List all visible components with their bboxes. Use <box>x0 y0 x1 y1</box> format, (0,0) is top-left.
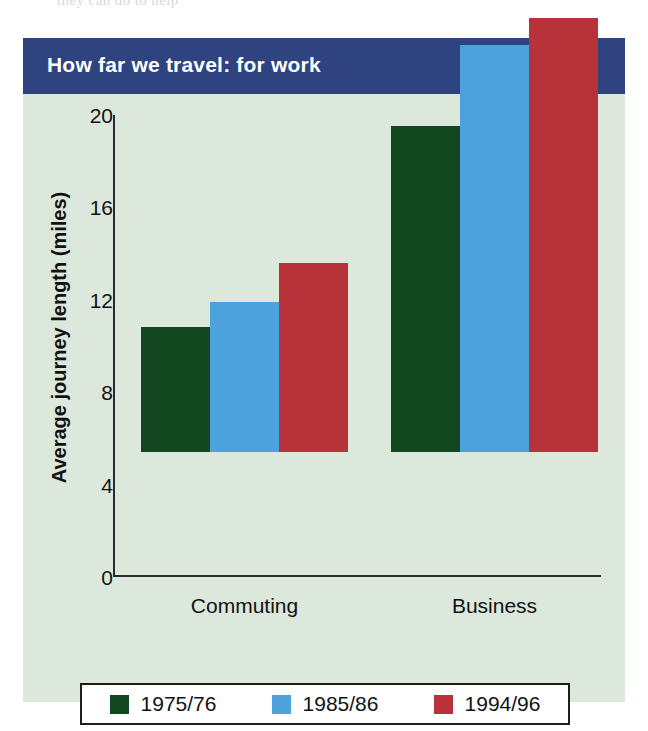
legend-item-1975-76[interactable]: 1975/76 <box>110 692 217 716</box>
plot-area: Average journey length (miles) 048121620… <box>23 94 625 702</box>
bar-business-1985-86 <box>460 45 529 452</box>
legend-label: 1994/96 <box>465 692 541 716</box>
chart-legend: 1975/761985/861994/96 <box>80 683 570 725</box>
category-label-commuting: Commuting <box>141 594 348 618</box>
legend-item-1994-96[interactable]: 1994/96 <box>434 692 541 716</box>
bar-commuting-1975-76 <box>141 327 210 452</box>
page-bleed-text: they can do to help <box>57 0 317 12</box>
bar-business-1994-96 <box>529 18 598 452</box>
legend-swatch-icon <box>434 695 453 714</box>
bar-commuting-1985-86 <box>210 302 279 452</box>
legend-label: 1985/86 <box>303 692 379 716</box>
bars-container <box>23 94 625 577</box>
chart-figure: How far we travel: for work Average jour… <box>23 38 625 702</box>
legend-swatch-icon <box>272 695 291 714</box>
category-label-business: Business <box>391 594 598 618</box>
legend-swatch-icon <box>110 695 129 714</box>
bar-business-1975-76 <box>391 126 460 452</box>
legend-item-1985-86[interactable]: 1985/86 <box>272 692 379 716</box>
legend-label: 1975/76 <box>141 692 217 716</box>
bar-commuting-1994-96 <box>279 263 348 452</box>
chart-title: How far we travel: for work <box>47 53 321 77</box>
